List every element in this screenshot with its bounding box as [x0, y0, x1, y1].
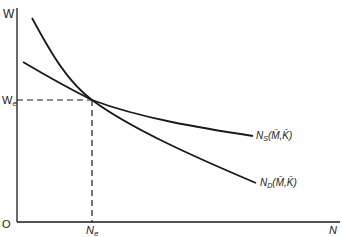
- employment-equilibrium-label: Ne: [86, 224, 99, 237]
- labor-market-diagram: W We O Ne N NS(M̄,K̄) ND(M̄,K̄): [0, 0, 342, 237]
- origin-label: O: [2, 218, 11, 230]
- supply-curve: [23, 62, 253, 136]
- supply-curve-label: NS(M̄,K̄): [256, 129, 292, 142]
- wage-equilibrium-label: We: [2, 94, 17, 108]
- demand-curve: [32, 18, 256, 183]
- x-axis-label: N: [329, 224, 337, 236]
- demand-curve-label: ND(M̄,K̄): [260, 176, 297, 189]
- y-axis-label: W: [3, 7, 15, 21]
